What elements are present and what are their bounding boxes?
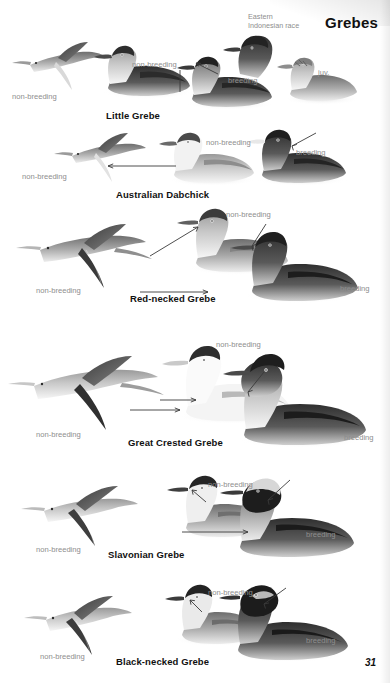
plate-red-necked-grebe-flight: [16, 224, 152, 288]
plate-australian-dabchick-swim-breeding: [247, 130, 348, 186]
species-name-black-necked-grebe: Black-necked Grebe: [116, 656, 209, 667]
label-little-grebe-breeding: breeding: [228, 76, 258, 85]
plate-australian-dabchick-flight: [54, 133, 146, 182]
plate-great-crested-grebe-flight: [8, 356, 164, 430]
label-slavonian-grebe-swim-nonbreeding: non-breeding: [208, 480, 253, 489]
plate-little-grebe-head-breeding: [223, 36, 272, 78]
label-black-necked-grebe-flight-nonbreeding: non-breeding: [40, 652, 85, 661]
plate-black-necked-grebe-flight: [24, 596, 132, 655]
plate-slavonian-grebe-flight: [21, 486, 138, 546]
label-black-necked-grebe-swim-nonbreeding: non-breeding: [208, 588, 253, 597]
label-slavonian-grebe-flight-nonbreeding: non-breeding: [36, 545, 81, 554]
plate-little-grebe-swim-juvenile: [277, 58, 360, 105]
species-name-red-necked-grebe: Red-necked Grebe: [130, 293, 216, 304]
label-little-grebe-juvenile: juv.: [318, 68, 329, 77]
species-name-little-grebe: Little Grebe: [106, 110, 160, 121]
species-name-slavonian-grebe: Slavonian Grebe: [108, 549, 184, 560]
label-great-crested-grebe-swim-breeding: breeding: [344, 433, 374, 442]
species-name-great-crested-grebe: Great Crested Grebe: [128, 437, 223, 448]
label-red-necked-grebe-swim-nonbreeding: non-breeding: [226, 210, 271, 219]
plate-illustrations: [0, 0, 390, 683]
plate-slavonian-grebe-swim-breeding: [220, 479, 354, 559]
page-number: 31: [365, 657, 376, 668]
label-great-crested-grebe-flight-nonbreeding: non-breeding: [36, 430, 81, 439]
label-australian-dabchick-swim-breeding: breeding: [296, 148, 326, 157]
species-name-australian-dabchick: Australian Dabchick: [116, 189, 209, 200]
label-australian-dabchick-swim-nonbreeding: non-breeding: [206, 138, 251, 147]
label-little-grebe-flight-nonbreeding: non-breeding: [12, 92, 57, 101]
field-guide-page: Grebes Eastern Indonesian race: [0, 0, 390, 683]
label-great-crested-grebe-swim-nonbreeding: non-breeding: [216, 340, 261, 349]
label-slavonian-grebe-swim-breeding: breeding: [306, 530, 336, 539]
plate-little-grebe-swim-nonbreeding: [94, 46, 194, 99]
label-little-grebe-swim-nonbreeding: non-breeding: [132, 60, 177, 69]
label-red-necked-grebe-flight-nonbreeding: non-breeding: [36, 286, 81, 295]
label-black-necked-grebe-swim-breeding: breeding: [306, 636, 336, 645]
label-red-necked-grebe-swim-breeding: breeding: [340, 284, 370, 293]
label-australian-dabchick-flight-nonbreeding: non-breeding: [22, 172, 67, 181]
plate-little-grebe-flight: [12, 42, 104, 90]
